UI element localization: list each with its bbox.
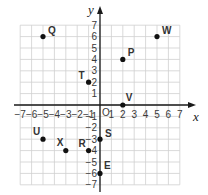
point-label: U — [33, 126, 40, 137]
point-label: W — [162, 25, 172, 36]
point-label: X — [57, 137, 64, 148]
point-dot-icon — [97, 171, 102, 176]
y-tick-label: −1 — [86, 111, 98, 122]
x-tick-label: 5 — [154, 109, 160, 120]
x-axis-arrow-icon — [188, 102, 196, 108]
x-tick-label: 3 — [131, 109, 137, 120]
x-tick-label: 2 — [120, 109, 126, 120]
x-tick-label: 6 — [166, 109, 172, 120]
point-dot-icon — [86, 80, 91, 85]
point-dot-icon — [97, 137, 102, 142]
point-t: T — [79, 70, 92, 85]
x-tick-label: 7 — [177, 109, 183, 120]
y-tick-label: 5 — [91, 43, 97, 54]
y-tick-label: 4 — [91, 54, 97, 65]
point-label: P — [128, 47, 135, 58]
x-tick-label: −5 — [37, 109, 49, 120]
point-label: V — [126, 92, 133, 103]
y-tick-label: 6 — [91, 31, 97, 42]
point-dot-icon — [154, 34, 159, 39]
y-tick-label: −6 — [86, 168, 98, 179]
x-tick-label: −6 — [26, 109, 38, 120]
x-tick-label: −7 — [14, 109, 26, 120]
x-tick-label: 4 — [143, 109, 149, 120]
y-tick-label: 7 — [91, 20, 97, 31]
point-label: E — [104, 160, 111, 171]
y-tick-label: −3 — [86, 134, 98, 145]
y-tick-label: −7 — [86, 179, 98, 190]
y-tick-label: 1 — [91, 88, 97, 99]
point-dot-icon — [40, 137, 45, 142]
y-axis-label: y — [86, 2, 94, 17]
point-label: S — [105, 128, 112, 139]
point-dot-icon — [86, 148, 91, 153]
x-tick-label: −3 — [60, 109, 72, 120]
y-tick-label: 2 — [91, 77, 97, 88]
x-tick-label: −4 — [49, 109, 61, 120]
coordinate-plane: xyO −7−6−5−4−3−2−112345677654321−1−2−3−4… — [0, 0, 208, 195]
y-tick-label: −2 — [86, 122, 98, 133]
point-dot-icon — [120, 102, 125, 107]
y-tick-label: 3 — [91, 65, 97, 76]
point-label: R — [79, 138, 87, 149]
point-label: T — [79, 70, 85, 81]
y-tick-label: −5 — [86, 157, 98, 168]
x-axis-label: x — [192, 109, 199, 124]
x-tick-label: 1 — [109, 109, 115, 120]
point-label: Q — [48, 25, 56, 36]
point-dot-icon — [63, 148, 68, 153]
point-dot-icon — [120, 57, 125, 62]
x-tick-label: −2 — [71, 109, 83, 120]
y-axis-arrow-icon — [97, 6, 103, 14]
point-dot-icon — [40, 34, 45, 39]
point-p: P — [120, 47, 135, 62]
plotted-points: QTPWVUXRSE — [33, 25, 172, 176]
